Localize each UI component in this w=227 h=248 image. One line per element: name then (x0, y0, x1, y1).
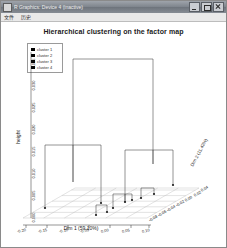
menu-item-file[interactable]: 文件 (4, 14, 14, 20)
data-point (44, 207, 46, 209)
window-title: R Graphics: Device 4 (inactive) (14, 4, 189, 10)
data-point (106, 211, 108, 213)
dendrogram-3d-plot (1, 22, 226, 247)
data-point (124, 201, 126, 203)
minimize-icon[interactable] (189, 2, 200, 12)
data-point (172, 184, 174, 186)
r-graphics-window: R Graphics: Device 4 (inactive) 文件 历史 Hi… (0, 0, 227, 248)
individual-points (44, 184, 174, 216)
plot-canvas: Hierarchical clustering on the factor ma… (1, 22, 226, 247)
data-point (100, 202, 102, 204)
menu-bar: 文件 历史 (1, 13, 226, 22)
data-point (153, 193, 155, 195)
maximize-icon[interactable] (201, 2, 212, 12)
data-point (112, 207, 114, 209)
data-point (95, 214, 97, 216)
dendrogram-tree (45, 59, 173, 215)
close-icon[interactable] (213, 2, 224, 12)
x-axis-label: Dim 1 (59.10%) (1, 225, 161, 231)
menu-item-history[interactable]: 历史 (21, 14, 31, 20)
data-point (131, 199, 133, 201)
window-controls (189, 2, 224, 12)
r-graphics-icon (3, 3, 12, 12)
data-point (140, 197, 142, 199)
